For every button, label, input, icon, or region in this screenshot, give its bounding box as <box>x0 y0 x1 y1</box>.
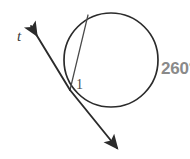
circle-outline <box>64 13 158 107</box>
tangent-line-label: t <box>17 29 21 44</box>
geometry-canvas <box>0 0 190 159</box>
geometry-figure: t 1 260° <box>0 0 190 159</box>
angle-label-1: 1 <box>76 78 83 92</box>
arc-measure-label: 260° <box>161 60 190 77</box>
tangent-line-lower-ray <box>70 90 117 148</box>
